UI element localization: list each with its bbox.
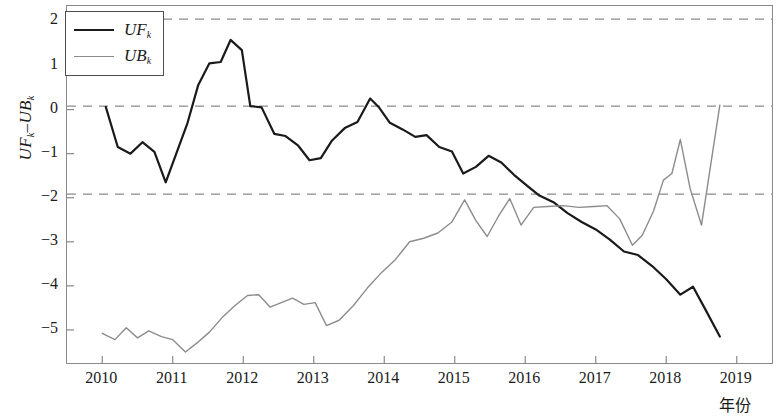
legend-label-uf: UFk [124,20,151,40]
x-tick-label: 2014 [353,370,413,386]
x-tick-label: 2010 [71,370,131,386]
x-tick-label: 2018 [635,370,695,386]
x-tick-label: 2011 [142,370,202,386]
series-line-ub [102,105,720,352]
chart-legend: UFk UBk [65,11,164,76]
legend-swatch-uf-line-icon [74,29,114,31]
y-axis-title: UFk–UBk [16,58,36,198]
legend-swatch-ub-line-icon [74,56,114,57]
y-tick-label: −1 [16,144,58,160]
x-axis-title: 年份 [700,392,770,416]
y-tick-label: 2 [16,11,58,27]
y-tick-label: 0 [16,100,58,116]
series-line-uf [106,40,720,337]
y-tick-label: −3 [16,232,58,248]
x-tick-label: 2013 [283,370,343,386]
x-tick-label: 2017 [565,370,625,386]
plot-canvas [67,6,772,363]
y-tick-label: −5 [16,320,58,336]
x-tick-label: 2015 [424,370,484,386]
y-tick-label: 1 [16,56,58,72]
legend-item-ub: UBk [74,43,151,69]
chart-figure: UFk–UBk 210−1−2−3−4−5 201020112012201320… [0,0,778,418]
plot-area [66,5,773,364]
legend-item-uf: UFk [74,17,151,43]
legend-label-ub: UBk [124,46,151,66]
x-tick-label: 2012 [212,370,272,386]
y-tick-label: −2 [16,188,58,204]
x-tick-label: 2019 [706,370,766,386]
y-tick-label: −4 [16,276,58,292]
x-tick-label: 2016 [494,370,554,386]
